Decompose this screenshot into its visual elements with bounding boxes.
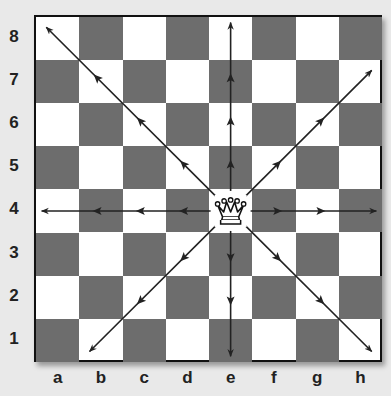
file-label: g [307,368,327,388]
arrow-up-left [46,27,216,197]
queen-move-arrows [36,17,380,360]
file-label: a [48,368,68,388]
rank-label: 2 [6,286,22,306]
file-label: b [91,368,111,388]
file-label: f [264,368,284,388]
rank-label: 4 [6,199,22,219]
file-label: e [221,368,241,388]
rank-label: 1 [6,329,22,349]
rank-label: 3 [6,243,22,263]
white-queen-icon [215,195,247,227]
rank-label: 7 [6,70,22,90]
file-label: h [350,368,370,388]
file-label: d [177,368,197,388]
file-label: c [134,368,154,388]
chessboard [34,15,382,362]
arrow-down-left [90,225,217,351]
rank-label: 6 [6,113,22,133]
arrow-up-right [245,70,372,196]
rank-label: 8 [6,27,22,47]
arrow-down-right [245,225,372,351]
rank-label: 5 [6,156,22,176]
